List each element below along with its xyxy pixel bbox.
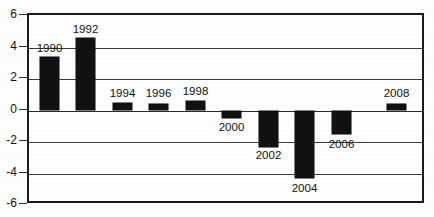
bar-label-1994: 1994	[110, 88, 136, 100]
y-tick-label-minus2: -2	[0, 134, 17, 146]
bar-label-2004: 2004	[292, 183, 318, 195]
y-tick-label-minus6: -6	[0, 197, 17, 209]
bar-label-1992: 1992	[73, 24, 99, 36]
bar-label-1996: 1996	[146, 88, 172, 100]
bar-2000	[222, 111, 241, 119]
gridline-minus4	[29, 174, 422, 175]
bar-1996	[149, 104, 168, 110]
y-tick-mark-2	[19, 77, 27, 78]
y-tick-label-0: 0	[0, 103, 17, 115]
bar-2004	[295, 111, 314, 179]
bar-1990	[40, 57, 59, 111]
bar-2002	[259, 111, 278, 147]
bar-label-2006: 2006	[329, 139, 355, 151]
y-tick-label-4: 4	[0, 40, 17, 52]
y-tick-mark-minus6	[19, 203, 27, 204]
bar-label-2000: 2000	[219, 122, 245, 134]
bar-label-2008: 2008	[384, 88, 410, 100]
bar-1992	[76, 38, 95, 110]
plot-area: 1990 1992 1994 1996 1998 2000 2002 2004 …	[27, 13, 424, 203]
y-tick-label-minus4: -4	[0, 166, 17, 178]
bar-1998	[186, 101, 205, 110]
bar-label-1998: 1998	[183, 86, 209, 98]
bar-1994	[113, 103, 132, 111]
bar-2008	[387, 104, 406, 110]
gridline-minus2	[29, 142, 422, 143]
bar-label-2002: 2002	[256, 150, 282, 162]
bar-chart: 6 4 2 0 -2 -4 -6 1990 1992	[0, 0, 434, 217]
y-tick-label-6: 6	[0, 8, 17, 20]
y-tick-mark-minus2	[19, 140, 27, 141]
y-tick-mark-6	[19, 14, 27, 15]
bar-2006	[332, 111, 351, 135]
y-tick-mark-0	[19, 109, 27, 110]
y-tick-mark-minus4	[19, 172, 27, 173]
y-tick-label-2: 2	[0, 71, 17, 83]
y-tick-mark-4	[19, 46, 27, 47]
bar-label-1990: 1990	[37, 43, 63, 55]
